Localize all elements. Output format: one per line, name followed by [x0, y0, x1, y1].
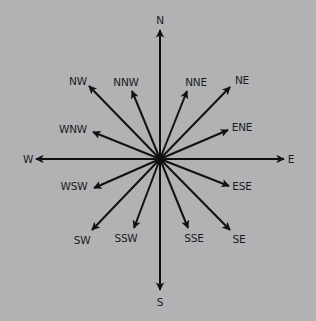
label-ese: ESE [232, 180, 251, 192]
label-sw: SW [74, 234, 91, 246]
arrow-se-icon [160, 159, 230, 230]
label-wsw: WSW [61, 180, 89, 192]
label-wnw: WNW [59, 123, 88, 135]
label-nne: NNE [185, 76, 207, 88]
label-ene: ENE [232, 121, 253, 133]
arrow-nw-icon [89, 86, 160, 159]
arrow-ne-icon [160, 87, 230, 159]
label-s: S [157, 296, 164, 308]
center-hub [155, 154, 165, 164]
label-nnw: NNW [113, 76, 139, 88]
label-n: N [156, 14, 164, 26]
arrow-sw-icon [92, 159, 160, 230]
label-sse: SSE [184, 232, 203, 244]
compass-svg: NNNENEENEEESESESSESSSWSWWSWWWNWNWNNW [0, 0, 316, 321]
compass-rose-diagram: NNNENEENEEESESESSESSSWSWWSWWWNWNWNNW [0, 0, 316, 321]
label-e: E [288, 153, 294, 165]
label-w: W [23, 153, 34, 165]
label-ne: NE [235, 74, 249, 86]
label-ssw: SSW [114, 232, 138, 244]
label-nw: NW [69, 75, 88, 87]
label-se: SE [233, 233, 246, 245]
